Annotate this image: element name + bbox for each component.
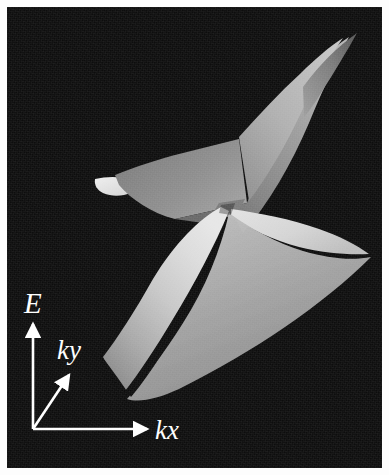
figure-root: E ky kx xyxy=(0,0,389,475)
plot-panel: E ky kx xyxy=(7,7,382,468)
upper-band xyxy=(95,33,357,233)
lower-band xyxy=(101,207,371,401)
band-structure-surfaces xyxy=(7,7,382,468)
